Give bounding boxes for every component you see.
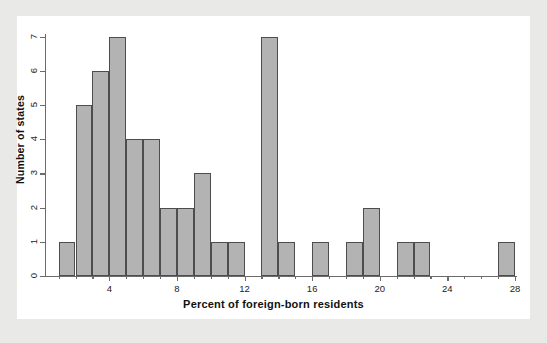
y-tick bbox=[40, 208, 45, 209]
x-tick bbox=[380, 276, 381, 281]
x-tick-label: 28 bbox=[510, 283, 521, 294]
histogram-bar bbox=[76, 105, 93, 276]
x-axis-line bbox=[45, 276, 517, 277]
y-tick-label: 1 bbox=[18, 236, 36, 247]
x-tick bbox=[498, 276, 499, 279]
histogram-bar bbox=[498, 242, 515, 276]
x-tick bbox=[126, 276, 127, 279]
histogram-bar bbox=[92, 71, 109, 276]
x-tick bbox=[261, 276, 262, 279]
x-tick-label: 4 bbox=[107, 283, 112, 294]
x-tick bbox=[211, 276, 212, 279]
histogram-bar bbox=[160, 208, 177, 276]
x-tick bbox=[414, 276, 415, 279]
x-tick-label: 8 bbox=[174, 283, 179, 294]
histogram-bar bbox=[126, 139, 143, 276]
x-tick bbox=[515, 276, 516, 281]
x-tick bbox=[76, 276, 77, 279]
y-tick bbox=[40, 71, 45, 72]
x-tick bbox=[278, 276, 279, 279]
x-tick bbox=[447, 276, 448, 281]
x-tick bbox=[295, 276, 296, 279]
plot-area: 01234567 481216202428 bbox=[0, 0, 547, 343]
x-tick bbox=[194, 276, 195, 279]
x-tick-label: 16 bbox=[307, 283, 318, 294]
x-tick bbox=[92, 276, 93, 279]
histogram-bar bbox=[211, 242, 228, 276]
x-tick bbox=[312, 276, 313, 281]
histogram-bar bbox=[143, 139, 160, 276]
x-tick bbox=[464, 276, 465, 279]
x-tick bbox=[481, 276, 482, 279]
histogram-bar bbox=[228, 242, 245, 276]
y-tick bbox=[40, 242, 45, 243]
x-tick bbox=[430, 276, 431, 279]
y-tick bbox=[40, 173, 45, 174]
y-tick bbox=[40, 105, 45, 106]
x-axis-title: Percent of foreign-born residents bbox=[0, 298, 547, 310]
histogram-bar bbox=[312, 242, 329, 276]
y-tick-label: 0 bbox=[18, 270, 36, 281]
x-tick bbox=[363, 276, 364, 279]
histogram-bar bbox=[278, 242, 295, 276]
histogram-bar bbox=[346, 242, 363, 276]
x-tick bbox=[397, 276, 398, 279]
x-tick bbox=[228, 276, 229, 279]
y-tick-label: 2 bbox=[18, 202, 36, 213]
y-tick bbox=[40, 276, 45, 277]
histogram-bar bbox=[59, 242, 76, 276]
y-axis-line bbox=[45, 34, 46, 277]
histogram-bar bbox=[261, 37, 278, 276]
y-tick bbox=[40, 37, 45, 38]
x-tick bbox=[160, 276, 161, 279]
x-tick bbox=[177, 276, 178, 281]
histogram-bar bbox=[363, 208, 380, 276]
histogram-bar bbox=[177, 208, 194, 276]
y-axis-title: Number of states bbox=[14, 95, 26, 184]
histogram-bar bbox=[194, 173, 211, 276]
histogram-bar bbox=[109, 37, 126, 276]
x-tick bbox=[329, 276, 330, 279]
y-tick-label: 6 bbox=[18, 65, 36, 76]
x-tick bbox=[346, 276, 347, 279]
y-tick bbox=[40, 139, 45, 140]
histogram-bar bbox=[414, 242, 431, 276]
x-tick bbox=[245, 276, 246, 281]
x-tick bbox=[59, 276, 60, 279]
x-tick bbox=[143, 276, 144, 279]
histogram-bar bbox=[397, 242, 414, 276]
x-tick-label: 20 bbox=[374, 283, 385, 294]
x-tick-label: 12 bbox=[239, 283, 250, 294]
histogram-figure: 01234567 481216202428 Number of states P… bbox=[0, 0, 547, 343]
y-tick-label: 7 bbox=[18, 31, 36, 42]
x-tick-label: 24 bbox=[442, 283, 453, 294]
x-tick bbox=[109, 276, 110, 281]
